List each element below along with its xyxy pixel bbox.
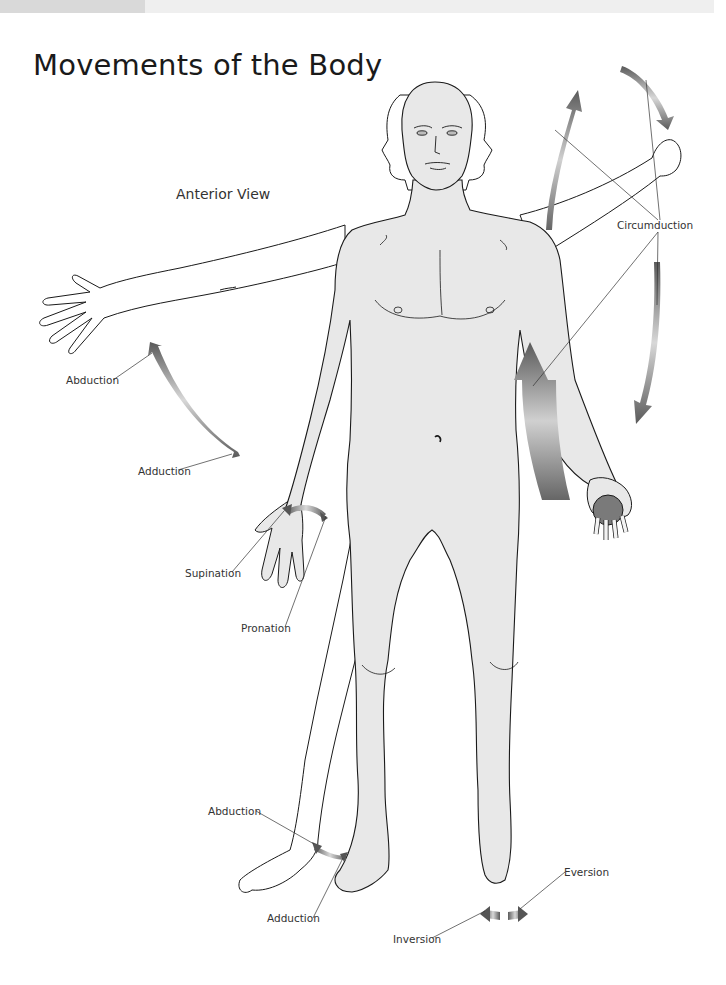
body-illustration [0,0,726,985]
label-pronation: Pronation [241,622,291,634]
label-arm-adduction: Adduction [138,465,191,477]
label-arm-abduction: Abduction [66,374,119,386]
ghost-hand [255,500,304,588]
label-eversion: Eversion [564,866,609,878]
right-fist [587,478,631,540]
label-leg-adduction: Adduction [267,912,320,924]
label-circumduction: Circumduction [617,219,693,231]
arm-abduction-arrow [148,342,240,458]
ghost-left-arm [40,225,345,354]
label-supination: Supination [185,567,241,579]
label-leg-abduction: Abduction [208,805,261,817]
label-inversion: Inversion [393,933,441,945]
